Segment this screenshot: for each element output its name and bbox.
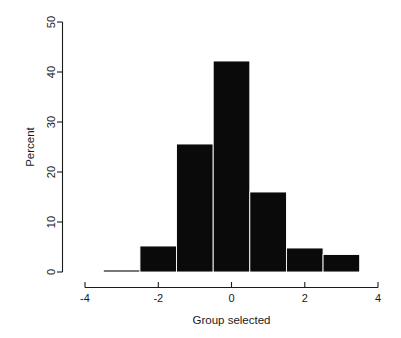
histogram-bar bbox=[140, 246, 177, 272]
x-axis-title: Group selected bbox=[193, 314, 271, 326]
x-tick-label--2: -2 bbox=[153, 292, 163, 304]
y-tick-label-0: 0 bbox=[45, 269, 57, 275]
histogram-bar bbox=[250, 192, 287, 272]
x-tick-label-2: 2 bbox=[302, 292, 308, 304]
histogram-plot-area: 0 10 20 30 40 50 Percent bbox=[0, 0, 401, 338]
histogram-bar bbox=[213, 61, 250, 272]
y-tick-label-10: 10 bbox=[45, 216, 57, 228]
y-tick-label-50: 50 bbox=[45, 16, 57, 28]
histogram-bar bbox=[286, 248, 323, 272]
x-tick-label-0: 0 bbox=[228, 292, 234, 304]
x-tick-label--4: -4 bbox=[80, 292, 90, 304]
histogram-figure: 0 10 20 30 40 50 Percent bbox=[0, 0, 401, 338]
histogram-bar bbox=[323, 255, 360, 273]
histogram-bar bbox=[103, 270, 140, 272]
y-axis-title: Percent bbox=[24, 126, 36, 166]
y-tick-label-40: 40 bbox=[45, 66, 57, 78]
y-tick-label-20: 20 bbox=[45, 166, 57, 178]
histogram-bar bbox=[177, 144, 214, 272]
y-tick-label-30: 30 bbox=[45, 116, 57, 128]
x-tick-label-4: 4 bbox=[375, 292, 381, 304]
